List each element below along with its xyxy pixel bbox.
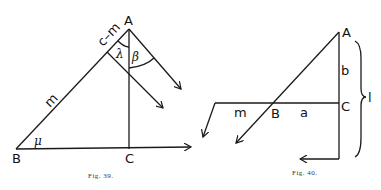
hypotenuse-BA [16, 29, 129, 149]
angle-label-lambda: λ [115, 47, 124, 61]
segment-label-c-minus-m: c–m [94, 20, 123, 49]
figure-caption-40: Fig. 40. [292, 169, 318, 177]
angle-label-beta: β [131, 50, 139, 64]
segment-label-a: a [300, 105, 308, 120]
point-label-C: C [341, 99, 350, 114]
point-label-B: B [271, 106, 280, 121]
diagonal-arrow-AB [236, 32, 339, 143]
point-label-A: A [124, 13, 133, 28]
point-label-A: A [342, 25, 351, 40]
arrow-from-m-end [203, 103, 215, 137]
point-label-C: C [125, 151, 134, 166]
angle-label-mu: μ [34, 134, 42, 148]
brace-l [355, 41, 366, 157]
segment-label-b: b [341, 63, 349, 78]
point-label-B: B [12, 151, 21, 166]
diagram-canvas: A B C c–m m λ β μ Fig. 39. A B C m a b l… [0, 0, 381, 190]
figure-40: A B C m a b l Fig. 40. [203, 25, 372, 177]
base-arrow-BC [16, 147, 191, 149]
segment-label-m: m [41, 91, 61, 110]
figure-39: A B C c–m m λ β μ Fig. 39. [12, 13, 191, 180]
figure-caption-39: Fig. 39. [88, 172, 114, 180]
segment-label-m: m [234, 105, 247, 120]
segment-label-l: l [368, 90, 372, 105]
